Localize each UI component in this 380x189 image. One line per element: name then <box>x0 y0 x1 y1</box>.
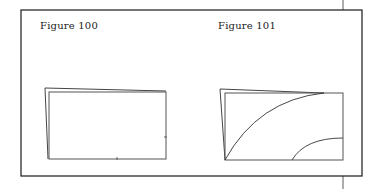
figure-101-skewed-outline <box>220 89 324 160</box>
figure-100-drawing <box>45 88 167 160</box>
figure-101-large-arc <box>225 93 324 160</box>
figure-101-small-arc <box>292 138 343 160</box>
figure-101-label: Figure 101 <box>218 20 276 31</box>
figure-100-inner-rect <box>49 92 166 159</box>
figure-101-drawing <box>220 89 343 160</box>
diagram-page: Figure 100 Figure 101 <box>0 0 380 189</box>
figure-100-label: Figure 100 <box>40 20 98 31</box>
figure-100-skewed-outline <box>45 88 166 159</box>
